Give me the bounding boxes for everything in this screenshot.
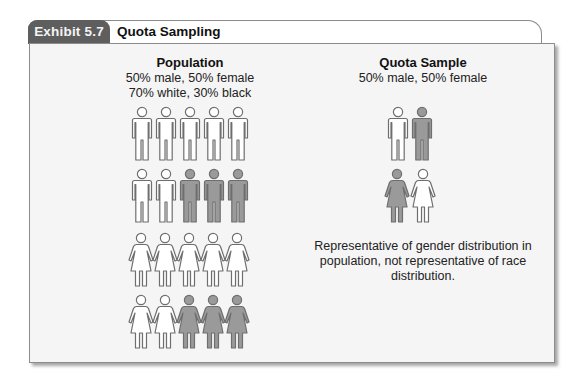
male-white-person-icon — [130, 106, 154, 162]
male-black-person-icon — [410, 106, 434, 162]
quota-sample-row-1-male — [386, 106, 434, 162]
female-white-person-icon — [199, 232, 223, 288]
population-row-3-female — [127, 232, 247, 288]
population-heading: Population — [110, 55, 270, 70]
female-white-person-icon — [223, 232, 247, 288]
population-row-4-female — [127, 294, 247, 350]
male-black-person-icon — [202, 168, 226, 224]
male-white-person-icon — [226, 106, 250, 162]
female-white-person-icon — [151, 232, 175, 288]
female-black-person-icon — [199, 294, 223, 350]
male-white-person-icon — [386, 106, 410, 162]
female-black-person-icon — [175, 294, 199, 350]
quota-sample-row-2-female — [383, 168, 435, 224]
female-white-person-icon — [151, 294, 175, 350]
quota-sample-gender-line: 50% male, 50% female — [328, 71, 518, 86]
male-white-person-icon — [154, 168, 178, 224]
population-row-2-male — [130, 168, 250, 224]
female-white-person-icon — [127, 232, 151, 288]
exhibit-tab: Exhibit 5.7 — [28, 20, 110, 44]
quota-sample-heading: Quota Sample — [343, 55, 503, 70]
female-black-person-icon — [223, 294, 247, 350]
male-black-person-icon — [178, 168, 202, 224]
population-row-1-male — [130, 106, 250, 162]
female-white-person-icon — [175, 232, 199, 288]
quota-sample-caption: Representative of gender distribution in… — [300, 239, 546, 284]
male-black-person-icon — [226, 168, 250, 224]
female-white-person-icon — [409, 168, 435, 224]
male-white-person-icon — [154, 106, 178, 162]
population-race-line: 70% white, 30% black — [95, 86, 285, 101]
exhibit-title: Quota Sampling — [117, 20, 221, 44]
population-gender-line: 50% male, 50% female — [95, 71, 285, 86]
female-white-person-icon — [127, 294, 151, 350]
male-white-person-icon — [178, 106, 202, 162]
male-white-person-icon — [202, 106, 226, 162]
male-white-person-icon — [130, 168, 154, 224]
female-black-person-icon — [383, 168, 409, 224]
